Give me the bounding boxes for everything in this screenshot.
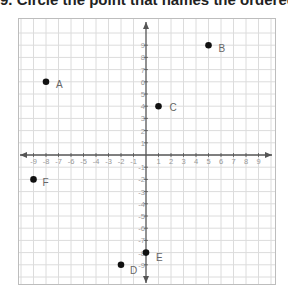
y-axis-up-arrow-icon: [143, 22, 149, 29]
x-tick-label: 6: [219, 157, 223, 166]
y-axis-down-arrow-icon: [143, 276, 149, 283]
x-tick-label: -9: [30, 157, 37, 166]
point-label: B: [219, 43, 226, 54]
x-tick-label: 7: [231, 157, 235, 166]
x-tick-label: -3: [105, 157, 112, 166]
x-tick-label: 1: [156, 157, 160, 166]
point-dot-icon[interactable]: [118, 262, 125, 269]
grid-lines: [19, 19, 275, 284]
x-tick-label: 8: [244, 157, 248, 166]
point-dot-icon[interactable]: [43, 79, 50, 86]
x-tick-label: -5: [80, 157, 87, 166]
y-tick-label: 1: [141, 139, 145, 148]
point-label: E: [156, 252, 163, 263]
x-tick-label: 9: [256, 157, 260, 166]
x-tick-label: -7: [55, 157, 62, 166]
x-tick-label: 5: [206, 157, 210, 166]
point-dot-icon[interactable]: [205, 42, 212, 49]
y-tick-label: 4: [141, 102, 145, 111]
x-tick-label: -1: [130, 157, 137, 166]
y-tick-label: -3: [138, 188, 145, 197]
axes: [20, 22, 272, 283]
y-tick-label: -5: [138, 212, 145, 221]
y-tick-label: -2: [138, 175, 145, 184]
y-tick-label: -4: [138, 200, 145, 209]
point-dot-icon[interactable]: [143, 249, 150, 256]
x-tick-label: -4: [93, 157, 100, 166]
point-dot-icon[interactable]: [155, 103, 162, 110]
point-label: C: [170, 102, 177, 113]
x-tick-label: 4: [194, 157, 198, 166]
x-tick-label: 3: [181, 157, 185, 166]
coordinate-plane: -9-8-7-6-5-4-3-2-1123456789987654321-1-2…: [0, 0, 288, 296]
y-tick-label: 7: [141, 66, 145, 75]
y-tick-label: 5: [141, 90, 145, 99]
y-tick-label: 8: [141, 53, 145, 62]
y-tick-label: 9: [141, 41, 145, 50]
point-dot-icon[interactable]: [30, 176, 37, 183]
x-tick-label: -8: [43, 157, 50, 166]
y-tick-label: 3: [141, 114, 145, 123]
y-tick-label: 6: [141, 78, 145, 87]
x-tick-label: -2: [118, 157, 125, 166]
point-f[interactable]: F: [30, 176, 48, 188]
x-tick-label: 2: [169, 157, 173, 166]
point-label: D: [130, 265, 137, 276]
y-tick-label: 2: [141, 127, 145, 136]
y-tick-label: -9: [138, 261, 145, 270]
y-tick-label: -7: [138, 236, 145, 245]
y-tick-label: -6: [138, 224, 145, 233]
point-label: A: [56, 79, 63, 90]
y-tick-label: -1: [138, 163, 145, 172]
x-tick-label: -6: [68, 157, 75, 166]
point-label: F: [43, 177, 49, 188]
